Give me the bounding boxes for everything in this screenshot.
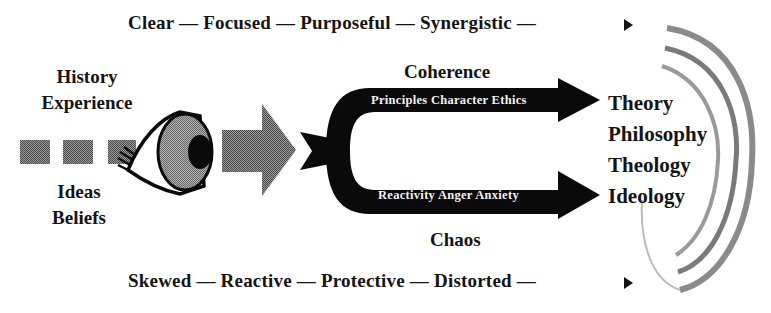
dashed-input-bar (20, 140, 136, 164)
separator: — (179, 12, 198, 33)
chaos-label: Chaos (430, 229, 481, 251)
inputs-above: History Experience (22, 64, 152, 116)
separator: — (517, 12, 536, 33)
separator: — (410, 270, 429, 291)
coherence-label: Coherence (404, 61, 490, 83)
gray-arrow-icon (222, 104, 296, 196)
bottom-flow: Skewed — Reactive — Protective — Distort… (128, 270, 536, 292)
bottom-flow-step: Distorted (434, 270, 512, 291)
top-flow-step: Focused (203, 12, 271, 33)
input-label: History (22, 64, 152, 90)
bottom-flow-step: Skewed (128, 270, 192, 291)
output-label: Ideology (608, 181, 707, 212)
lower-arrow-text: Reactivity Anger Anxiety (378, 188, 519, 203)
bottom-flow-arrow-icon (624, 277, 633, 289)
separator: — (276, 12, 295, 33)
top-flow-step: Synergistic (420, 12, 512, 33)
separator: — (297, 270, 316, 291)
bottom-flow-step: Protective (321, 270, 405, 291)
input-label: Ideas (14, 179, 144, 205)
top-flow-step: Clear (128, 12, 174, 33)
top-flow: Clear — Focused — Purposeful — Synergist… (128, 12, 536, 34)
output-label: Philosophy (608, 119, 707, 150)
output-label: Theology (608, 150, 707, 181)
outputs: Theory Philosophy Theology Ideology (608, 88, 707, 212)
separator: — (396, 12, 415, 33)
top-flow-arrow-icon (624, 19, 633, 31)
bottom-flow-step: Reactive (221, 270, 292, 291)
upper-arrow-text: Principles Character Ethics (371, 93, 527, 108)
output-label: Theory (608, 88, 707, 119)
separator: — (196, 270, 215, 291)
separator: — (517, 270, 536, 291)
inputs-below: Ideas Beliefs (14, 179, 144, 231)
input-label: Beliefs (14, 205, 144, 231)
input-label: Experience (22, 90, 152, 116)
top-flow-step: Purposeful (300, 12, 391, 33)
